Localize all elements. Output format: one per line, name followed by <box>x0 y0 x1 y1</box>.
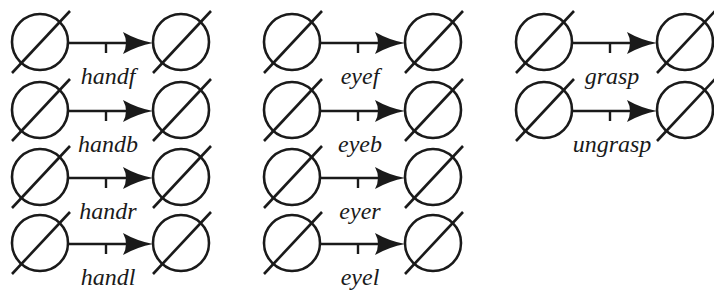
transition-ungrasp: ungrasp <box>516 79 714 157</box>
transition-handb: handb <box>12 79 211 157</box>
target-node-empty-set-icon <box>153 146 211 208</box>
target-node-empty-set-icon <box>657 79 714 141</box>
arrowhead-icon <box>123 233 153 255</box>
transition-eyef: eyef <box>264 11 463 89</box>
target-node-empty-set-icon <box>405 212 463 274</box>
arrowhead-icon <box>375 167 405 189</box>
transition-label: handr <box>79 198 137 224</box>
arrowhead-icon <box>627 100 657 122</box>
source-node-empty-set-icon <box>264 146 322 208</box>
target-node-empty-set-icon <box>405 79 463 141</box>
arrowhead-icon <box>123 100 153 122</box>
transition-label: grasp <box>585 63 640 89</box>
column-eye: eyefeyebeyereyel <box>264 11 463 290</box>
transition-label: eyef <box>341 63 383 89</box>
arrowhead-icon <box>375 100 405 122</box>
arrowhead-icon <box>123 32 153 54</box>
transition-diagram: handfhandbhandrhandleyefeyebeyereyelgras… <box>0 0 714 290</box>
transition-eyer: eyer <box>264 146 463 224</box>
transition-handf: handf <box>12 11 211 89</box>
source-node-empty-set-icon <box>264 212 322 274</box>
source-node-empty-set-icon <box>12 212 70 274</box>
source-node-empty-set-icon <box>516 79 574 141</box>
arrowhead-icon <box>123 167 153 189</box>
column-grasp: graspungrasp <box>516 11 714 157</box>
arrowhead-icon <box>375 32 405 54</box>
transition-label: handl <box>81 264 136 290</box>
arrowhead-icon <box>375 233 405 255</box>
target-node-empty-set-icon <box>153 11 211 73</box>
target-node-empty-set-icon <box>153 79 211 141</box>
diagram-canvas: handfhandbhandrhandleyefeyebeyereyelgras… <box>0 0 714 290</box>
source-node-empty-set-icon <box>516 11 574 73</box>
transition-grasp: grasp <box>516 11 714 89</box>
target-node-empty-set-icon <box>153 212 211 274</box>
transition-label: handb <box>78 131 138 157</box>
source-node-empty-set-icon <box>264 79 322 141</box>
target-node-empty-set-icon <box>405 11 463 73</box>
transition-eyeb: eyeb <box>264 79 463 157</box>
transition-label: eyel <box>341 264 380 290</box>
source-node-empty-set-icon <box>264 11 322 73</box>
source-node-empty-set-icon <box>12 11 70 73</box>
column-hand: handfhandbhandrhandl <box>12 11 211 290</box>
source-node-empty-set-icon <box>12 79 70 141</box>
target-node-empty-set-icon <box>657 11 714 73</box>
transition-handr: handr <box>12 146 211 224</box>
arrowhead-icon <box>627 32 657 54</box>
source-node-empty-set-icon <box>12 146 70 208</box>
transition-label: ungrasp <box>573 131 652 157</box>
target-node-empty-set-icon <box>405 146 463 208</box>
transition-label: eyeb <box>338 131 382 157</box>
transition-label: handf <box>81 63 139 89</box>
transition-label: eyer <box>339 198 381 224</box>
